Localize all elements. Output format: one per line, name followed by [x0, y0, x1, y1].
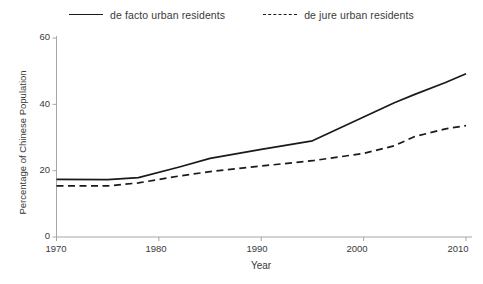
- x-axis-title: Year: [56, 260, 466, 271]
- x-tick-label-2000: 2000: [334, 243, 380, 254]
- y-axis-title: Percentage of Chinese Population: [17, 48, 28, 238]
- x-tick-label-1990: 1990: [234, 243, 280, 254]
- y-tick-label-60: 60: [20, 31, 50, 42]
- x-tick-label-1980: 1980: [133, 243, 179, 254]
- plot-area: [0, 0, 483, 284]
- series-line-de-facto-urban-residents: [57, 74, 467, 180]
- chart-figure: de facto urban residents de jure urban r…: [0, 0, 483, 284]
- x-tick-label-2010: 2010: [435, 243, 481, 254]
- x-tick-label-1970: 1970: [33, 243, 79, 254]
- series-line-de-jure-urban-residents: [57, 126, 467, 186]
